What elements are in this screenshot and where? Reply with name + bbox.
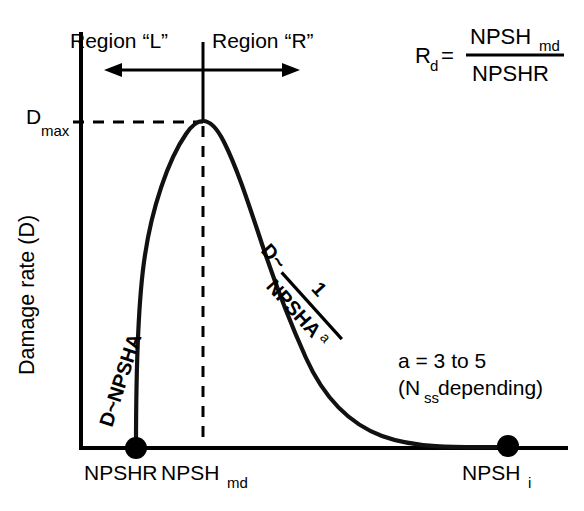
y-tick-label-dmax: D max xyxy=(26,105,70,139)
region-arrow-head-right xyxy=(282,63,300,77)
formula-lhs-subscript: d xyxy=(430,57,438,74)
formula-equals: = xyxy=(441,43,454,68)
region-arrow-head-left xyxy=(104,63,122,77)
formula-numerator: NPSH xyxy=(470,24,531,49)
exponent-note-line2-rest: depending) xyxy=(438,376,543,399)
npshr-label: NPSHR xyxy=(84,461,158,484)
npshi-label-subscript: i xyxy=(528,474,531,491)
exponent-note: a = 3 to 5 (N ss depending) xyxy=(398,349,543,406)
x-tick-label-npshr: NPSHR xyxy=(84,461,158,484)
falling-limb-numerator: 1 xyxy=(307,277,331,300)
npshi-point-marker xyxy=(497,435,519,457)
damage-rate-curve-figure: D max Damage rate (D) Region “L” Region … xyxy=(0,0,584,511)
exponent-note-line1: a = 3 to 5 xyxy=(398,349,486,372)
npshi-label: NPSH xyxy=(462,461,520,484)
formula-denominator: NPSHR xyxy=(472,61,549,86)
formula-numerator-subscript: md xyxy=(539,37,560,54)
npshr-point-marker xyxy=(125,437,147,459)
dmax-label-subscript: max xyxy=(41,122,70,139)
rd-formula: R d = NPSH md NPSHR xyxy=(415,24,564,86)
npshmd-label-subscript: md xyxy=(227,474,248,491)
npshmd-label: NPSH xyxy=(161,461,219,484)
region-right-label: Region “R” xyxy=(212,29,314,52)
exponent-note-line2-open: (N xyxy=(398,376,420,399)
region-left-label: Region “L” xyxy=(70,29,168,52)
x-tick-label-npshmd: NPSH md xyxy=(161,461,248,491)
exponent-note-line2-subscript: ss xyxy=(424,389,439,406)
dmax-label: D xyxy=(26,105,41,128)
falling-limb-annotation: D~ 1 NPSHA a xyxy=(242,231,362,356)
formula-lhs: R xyxy=(415,43,431,68)
y-axis-title: Damage rate (D) xyxy=(15,215,39,375)
x-tick-label-npshi: NPSH i xyxy=(462,461,531,491)
